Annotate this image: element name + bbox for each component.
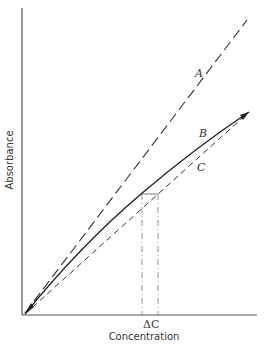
label-b: B <box>198 127 207 140</box>
label-a: A <box>194 67 203 80</box>
line-a <box>25 20 247 313</box>
label-c: C <box>197 161 206 174</box>
x-axis-title: Concentration <box>109 331 180 342</box>
absorbance-concentration-diagram: A B C ΔC Concentration Absorbance <box>0 0 266 344</box>
delta-c-label: ΔC <box>143 318 159 331</box>
line-c <box>25 112 249 314</box>
y-axis-title: Absorbance <box>4 130 15 189</box>
